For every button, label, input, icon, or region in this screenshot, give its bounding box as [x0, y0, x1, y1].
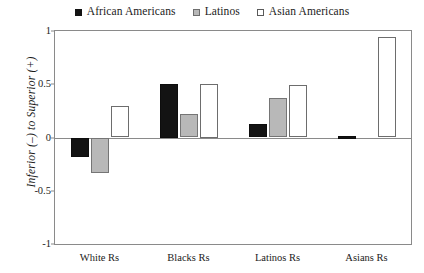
x-axis-label: Blacks Rs	[167, 252, 209, 263]
legend-swatch-latinos	[193, 9, 200, 16]
y-tick-label: -0.5	[5, 186, 51, 197]
x-axis-label: Asians Rs	[345, 252, 387, 263]
bar	[269, 98, 287, 137]
y-axis-title: Inferior (–) to Superior (+)	[25, 42, 37, 202]
bar	[160, 84, 178, 137]
bar	[289, 85, 307, 137]
chart-legend: African Americans Latinos Asian American…	[0, 3, 424, 21]
bar	[200, 84, 218, 137]
bar	[91, 138, 109, 173]
legend-label-african-americans: African Americans	[87, 6, 176, 18]
plot-area: 10.50-0.5-1 White RsBlacks RsLatinos RsA…	[54, 30, 412, 245]
y-tick-mark	[51, 244, 55, 245]
bar	[71, 138, 89, 157]
y-tick-label: -1	[5, 239, 51, 250]
bar	[180, 114, 198, 137]
y-tick-label: 0	[5, 132, 51, 143]
y-tick-label: 1	[5, 26, 51, 37]
y-tick-label: 0.5	[5, 79, 51, 90]
bar	[378, 37, 396, 137]
legend-item-latinos: Latinos	[193, 6, 240, 18]
x-axis-label: Latinos Rs	[255, 252, 300, 263]
y-tick-mark	[51, 190, 55, 191]
bar-chart-figure: African Americans Latinos Asian American…	[0, 0, 424, 273]
legend-label-latinos: Latinos	[205, 6, 240, 18]
y-tick-mark	[51, 31, 55, 32]
bar	[111, 106, 129, 138]
legend-item-asian-americans: Asian Americans	[257, 6, 349, 18]
legend-label-asian-americans: Asian Americans	[269, 6, 349, 18]
legend-item-african-americans: African Americans	[75, 6, 176, 18]
bar	[249, 124, 267, 138]
bar	[338, 136, 356, 139]
y-tick-mark	[51, 137, 55, 138]
x-axis-label: White Rs	[80, 252, 119, 263]
legend-swatch-african-americans	[75, 9, 82, 16]
legend-swatch-asian-americans	[257, 9, 264, 16]
y-tick-mark	[51, 84, 55, 85]
